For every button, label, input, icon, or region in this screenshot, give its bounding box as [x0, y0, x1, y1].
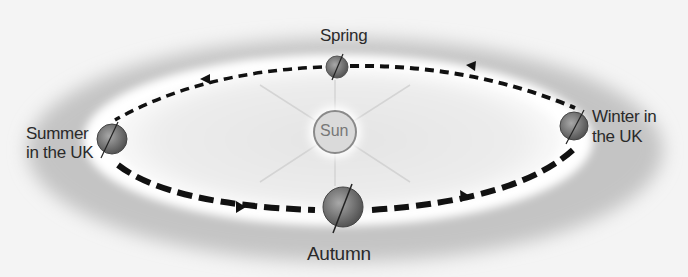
autumn-label: Autumn	[307, 244, 371, 263]
spring-label: Spring	[320, 26, 367, 45]
summer-label-line1: Summer	[26, 124, 88, 143]
winter-label-line2: the UK	[592, 127, 642, 146]
sun-label: Sun	[320, 122, 348, 140]
winter-label-line1: Winter in	[592, 107, 656, 126]
summer-label-line2: in the UK	[26, 143, 93, 162]
seasons-orbit-diagram: Sun Spring Summer in the UK Autumn Winte…	[0, 0, 688, 277]
